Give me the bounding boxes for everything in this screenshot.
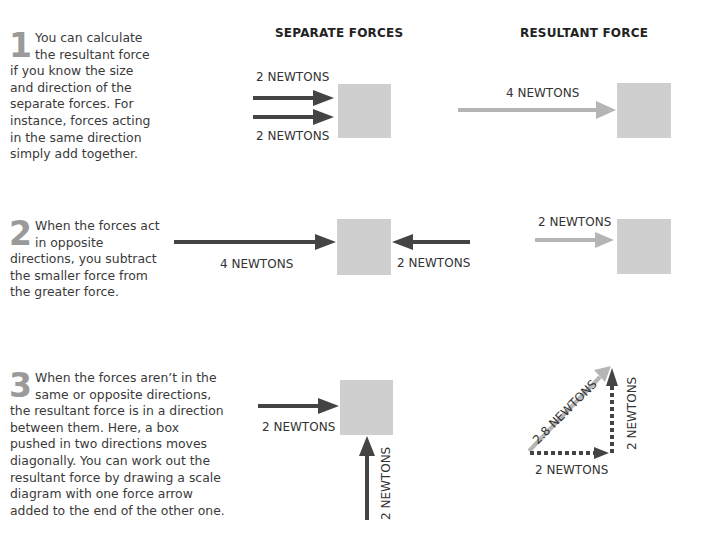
resultant-arrow-right-icon (458, 101, 616, 119)
arrow-right-icon (258, 398, 339, 414)
label-s1-resultant: 4 NEWTONS (506, 86, 579, 100)
label-s1-separate-bottom: 2 NEWTONS (256, 129, 329, 143)
label-s3-separate-vertical: 2 NEWTONS (379, 447, 393, 520)
arrow-right-icon (253, 109, 334, 125)
arrow-left-icon (392, 234, 470, 250)
label-s2-separate-right: 2 NEWTONS (397, 256, 470, 270)
arrow-right-icon (253, 90, 334, 106)
label-s2-resultant: 2 NEWTONS (538, 215, 611, 229)
dotted-arrow-right-icon (594, 447, 609, 459)
arrow-right-icon (174, 234, 336, 250)
label-s3-resultant-vertical: 2 NEWTONS (625, 377, 639, 450)
label-s3-resultant-horizontal: 2 NEWTONS (535, 463, 608, 477)
label-s2-separate-left: 4 NEWTONS (220, 257, 293, 271)
arrow-up-icon (359, 436, 375, 520)
label-s3-separate-horizontal: 2 NEWTONS (262, 420, 335, 434)
resultant-arrow-right-icon (535, 232, 614, 248)
label-s1-separate-top: 2 NEWTONS (256, 70, 329, 84)
